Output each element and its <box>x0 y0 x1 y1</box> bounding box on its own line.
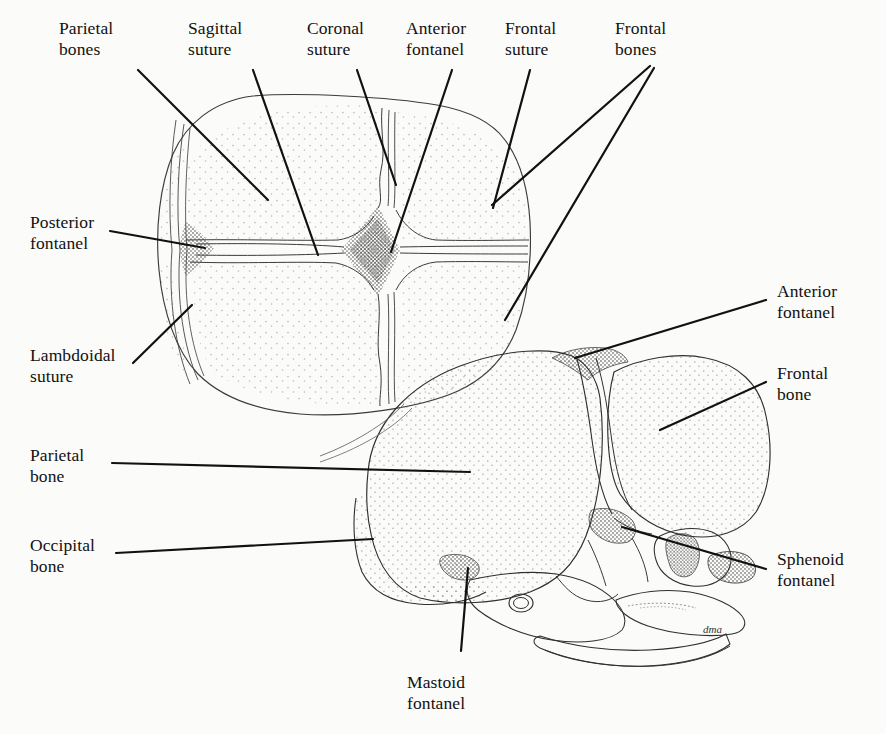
parietal-bone-plate-left-posterior <box>186 105 380 242</box>
label-frontal-bones: Frontal bones <box>615 18 666 60</box>
label-frontal-bone: Frontal bone <box>777 363 828 405</box>
label-anterior-fontanel-side: Anterior fontanel <box>777 281 837 323</box>
sagittal-suture-line-upper <box>196 244 344 247</box>
skull-diagram-svg: dma <box>0 0 886 734</box>
sagittal-suture-line-right-lower <box>400 253 528 254</box>
label-posterior-fontanel: Posterior fontanel <box>30 212 94 254</box>
lateral-mandible-lower-edge <box>545 646 730 666</box>
lateral-view: dma <box>320 347 770 666</box>
lateral-temporal-detail-b <box>588 540 606 586</box>
lateral-external-acoustic-meatus-inner <box>514 598 529 609</box>
label-sagittal-suture: Sagittal suture <box>188 18 242 60</box>
sagittal-suture-line-lower <box>196 253 344 255</box>
artist-signature: dma <box>703 623 722 635</box>
label-sphenoid-fontanel: Sphenoid fontanel <box>777 549 844 591</box>
lateral-temporal-detail-a <box>556 576 618 602</box>
frontal-suture-line-a <box>388 110 389 206</box>
lateral-maxilla <box>616 590 745 635</box>
lateral-temporal-detail-c <box>632 538 648 582</box>
label-anterior-fontanel-top: Anterior fontanel <box>406 18 466 60</box>
lateral-sphenoid-fontanel <box>589 508 635 543</box>
label-parietal-bones: Parietal bones <box>59 18 113 60</box>
sagittal-suture-line-right-upper <box>400 246 528 247</box>
occipital-plate-superior <box>160 262 190 372</box>
label-lambdoidal-suture: Lambdoidal suture <box>30 345 116 387</box>
lateral-nasal-region <box>708 552 756 584</box>
label-coronal-suture: Coronal suture <box>307 18 364 60</box>
label-parietal-bone: Parietal bone <box>30 445 84 487</box>
leader-frontal-bones-b <box>505 68 654 320</box>
parietal-bone-plate-left-anterior <box>194 261 380 405</box>
frontal-suture-line-b <box>394 112 395 208</box>
leader-occipital-bone <box>116 539 373 553</box>
frontal-suture-line-c <box>388 294 389 404</box>
label-mastoid-fontanel: Mastoid fontanel <box>407 672 465 714</box>
figure-page: dma Parietal bones Sagittal suture Coron… <box>0 0 886 734</box>
frontal-suture-line-d <box>394 292 395 402</box>
leader-frontal-bones-a <box>492 66 650 205</box>
label-frontal-suture: Frontal suture <box>505 18 556 60</box>
lateral-external-acoustic-meatus <box>509 594 533 612</box>
label-occipital-bone: Occipital bone <box>30 535 95 577</box>
lateral-mandible <box>534 634 730 666</box>
leader-anterior-fontanel-side <box>575 300 766 358</box>
lateral-maxilla-detail <box>628 603 696 608</box>
lateral-squamous-hatch <box>640 607 686 610</box>
